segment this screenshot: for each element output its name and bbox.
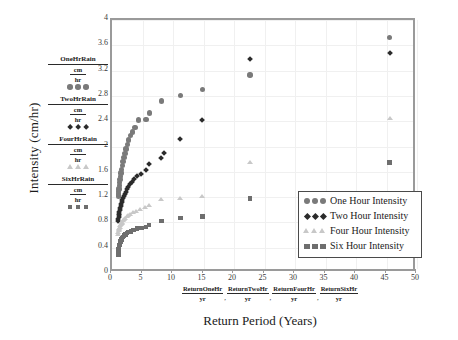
legend-item[interactable]: Four Hour Intensity xyxy=(302,224,418,239)
x-tick-mark xyxy=(171,269,172,273)
x-tick-mark xyxy=(202,269,203,273)
data-point xyxy=(116,211,122,217)
triangle-icon xyxy=(302,225,328,237)
legend-item[interactable]: Two Hour Intensity xyxy=(302,209,418,224)
chart-figure: Intensity (cm/hr) OneHrRaincmhrTwoHrRain… xyxy=(0,0,458,340)
data-point xyxy=(115,230,121,234)
circle-icon xyxy=(304,198,310,204)
x-tick-label: 0 xyxy=(95,273,125,282)
data-point xyxy=(123,189,129,195)
x-tick-label: 40 xyxy=(339,273,369,282)
square-icon xyxy=(312,244,317,249)
data-point xyxy=(115,232,121,236)
data-point xyxy=(125,184,131,190)
data-point xyxy=(146,161,152,167)
x-tick-mark xyxy=(354,269,355,273)
legend-item[interactable]: One Hour Intensity xyxy=(302,194,418,209)
gridline-horizontal xyxy=(112,20,413,21)
data-point xyxy=(124,187,130,193)
data-point xyxy=(123,232,128,237)
data-point xyxy=(122,151,127,156)
square-icon xyxy=(320,244,325,249)
x-variable-denominator: yr xyxy=(182,294,223,303)
data-point xyxy=(118,201,124,207)
x-tick-label: 25 xyxy=(248,273,278,282)
data-point xyxy=(125,213,131,217)
data-point xyxy=(162,151,168,157)
x-variable-denominator: yr xyxy=(320,294,358,303)
x-variable-denominator: yr xyxy=(227,294,269,303)
data-point xyxy=(117,205,123,211)
data-point xyxy=(120,159,125,164)
data-point xyxy=(247,56,253,62)
data-point xyxy=(118,203,124,209)
data-point xyxy=(387,50,393,56)
gridline-vertical xyxy=(173,20,174,269)
data-point xyxy=(116,228,122,232)
circle-icon xyxy=(302,195,328,207)
y-tick-label: 1.6 xyxy=(84,166,108,174)
data-point xyxy=(247,72,252,77)
data-point xyxy=(131,228,136,233)
gridline-vertical xyxy=(295,20,296,269)
data-point xyxy=(117,180,122,185)
x-tick-mark xyxy=(110,269,111,273)
data-point xyxy=(122,216,128,220)
x-tick-label: 15 xyxy=(187,273,217,282)
gridline-horizontal xyxy=(112,96,413,97)
triangle-icon xyxy=(319,228,325,233)
legend-item[interactable]: Six Hour Intensity xyxy=(302,239,418,254)
y-tick-label: 4 xyxy=(84,14,108,22)
x-variable-group: ReturnFourHryr xyxy=(271,284,317,303)
data-point xyxy=(144,225,149,230)
circle-icon xyxy=(67,84,73,90)
x-variable-group: ReturnTwoHryr xyxy=(226,284,270,303)
x-tick-label: 10 xyxy=(156,273,186,282)
data-point xyxy=(116,216,122,222)
data-point xyxy=(387,35,392,40)
data-point xyxy=(117,225,123,229)
data-point xyxy=(159,155,165,161)
y-tick-label: 2 xyxy=(84,141,108,149)
circle-icon xyxy=(312,198,318,204)
x-tick-mark xyxy=(141,269,142,273)
data-point xyxy=(124,214,130,218)
data-point xyxy=(116,250,121,255)
data-point xyxy=(116,227,122,231)
legend-label: One Hour Intensity xyxy=(328,195,407,207)
data-point xyxy=(121,217,127,221)
data-point xyxy=(116,186,121,191)
gridline-horizontal xyxy=(112,71,413,72)
y-tick-label: 0.4 xyxy=(84,242,108,250)
y-tick-label: 2.8 xyxy=(84,90,108,98)
x-tick-label: 50 xyxy=(400,273,430,282)
data-point xyxy=(116,226,122,230)
x-variable-numerator: ReturnFourHr xyxy=(272,284,316,294)
data-point xyxy=(116,252,121,257)
data-point xyxy=(117,209,123,215)
gridline-horizontal xyxy=(112,121,413,122)
legend-label: Six Hour Intensity xyxy=(328,240,404,252)
data-point xyxy=(133,209,139,213)
gridline-vertical xyxy=(234,20,235,269)
x-tick-mark xyxy=(385,269,386,273)
gridline-horizontal xyxy=(112,147,413,148)
plot-frame: One Hour IntensityTwo Hour IntensityFour… xyxy=(110,18,415,271)
data-point xyxy=(132,125,137,130)
data-point xyxy=(119,237,124,242)
data-point xyxy=(118,174,123,179)
data-point xyxy=(119,197,125,203)
data-point xyxy=(129,179,135,185)
y-tick-label: 2.4 xyxy=(84,115,108,123)
x-variable-group: ReturnSixHryr xyxy=(319,284,359,303)
data-point xyxy=(146,203,152,207)
data-point xyxy=(116,214,122,220)
data-point xyxy=(159,98,164,103)
data-point xyxy=(117,183,122,188)
data-point xyxy=(125,231,130,236)
circle-icon xyxy=(320,198,326,204)
gridline-vertical xyxy=(143,20,144,269)
data-point xyxy=(135,226,140,231)
diamond-icon xyxy=(67,124,73,130)
x-tick-label: 5 xyxy=(126,273,156,282)
